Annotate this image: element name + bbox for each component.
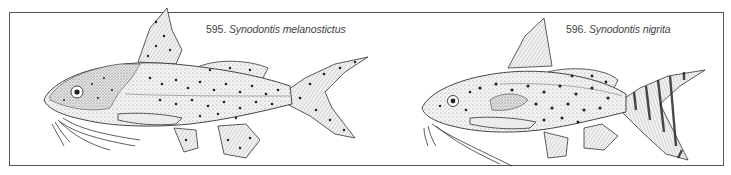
anal-fin	[218, 124, 260, 158]
illustrations	[0, 0, 731, 175]
anal-fin	[584, 124, 618, 150]
caudal-fin	[622, 70, 705, 160]
fish-595-melanostictus	[44, 8, 368, 158]
pelvic-fin	[544, 132, 568, 158]
fish-596-nigrita	[422, 18, 705, 166]
caudal-fin	[285, 57, 368, 138]
dorsal-fin	[508, 18, 552, 68]
dorsal-fin	[138, 8, 182, 64]
